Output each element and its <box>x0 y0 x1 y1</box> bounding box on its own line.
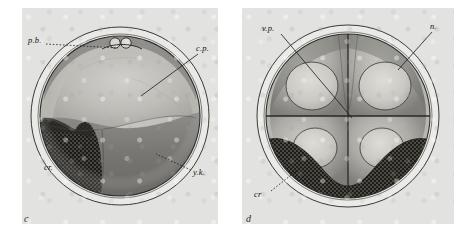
figure-plate: p.b. c.p. cr. y.k. c <box>0 0 475 232</box>
label-vp-d: v.p. <box>262 23 274 33</box>
label-n-d: n. <box>430 21 437 31</box>
panel-letter-d: d <box>246 213 251 224</box>
panel-d-leaders <box>0 0 475 232</box>
label-cr-d: cr <box>254 189 261 199</box>
